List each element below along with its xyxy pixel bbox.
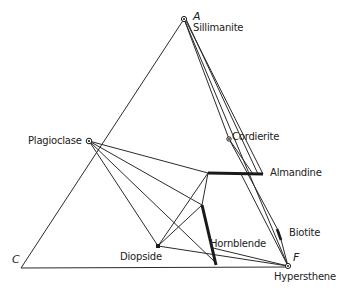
- tie-hornblende-hypersthene: [213, 248, 288, 266]
- edge-c-f: [21, 267, 288, 268]
- diopside-label: Diopside: [120, 252, 162, 262]
- biotite-label: Biotite: [289, 228, 320, 238]
- vertex-f-label: F: [293, 252, 299, 263]
- vertex-a-label: A: [193, 11, 200, 22]
- sillimanite-label: Sillimanite: [193, 23, 243, 33]
- tie-diopside-hypersthene: [158, 246, 288, 266]
- almandine-bar: [208, 173, 263, 174]
- tie-almandine-hypersthene: [241, 174, 288, 266]
- cordierite-label: Cordierite: [232, 132, 279, 142]
- edge-a-f: [184, 19, 288, 266]
- tie-a-cordierite: [184, 19, 229, 139]
- almandine-label: Almandine: [270, 168, 322, 178]
- tie-diopside-hornblende: [158, 205, 202, 246]
- hypersthene-label: Hypersthene: [274, 272, 336, 282]
- biotite-bar: [277, 229, 281, 240]
- tie-cordierite-biotite: [229, 139, 279, 232]
- tie-a-almandine-2: [186, 19, 258, 174]
- vertex-c-label: C: [12, 254, 19, 265]
- hornblende-label: Hornblende: [210, 239, 266, 249]
- plagioclase-label: Plagioclase: [28, 136, 82, 146]
- diopside-marker: [156, 244, 160, 248]
